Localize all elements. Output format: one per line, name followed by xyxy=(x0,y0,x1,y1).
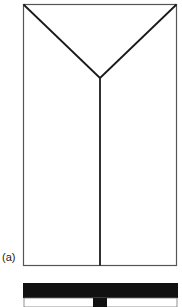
diagram-canvas xyxy=(0,0,182,307)
stem-block xyxy=(93,298,107,307)
panel-label: (a) xyxy=(2,251,15,263)
top-bar xyxy=(23,283,178,298)
right-diagonal-line xyxy=(100,5,177,79)
left-diagonal-line xyxy=(24,5,101,79)
